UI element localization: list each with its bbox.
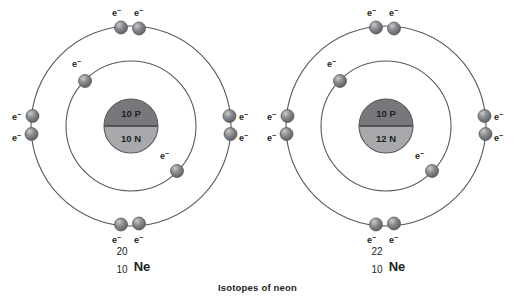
electron-label: e− xyxy=(134,7,143,19)
electron xyxy=(26,110,39,123)
element-symbol: Ne xyxy=(134,259,151,274)
electron-label: e− xyxy=(415,150,424,162)
electron-label: e− xyxy=(494,111,503,123)
electron-label: e− xyxy=(267,111,276,123)
electron xyxy=(115,218,128,231)
electron xyxy=(370,21,383,34)
atom-diagram-neon-22: 10 P 12 N e− e− e− e− e− e− e− e− e− e− xyxy=(255,0,515,280)
isotope-notation: 20 Ne 10 xyxy=(116,246,150,275)
electron-label: e− xyxy=(72,58,81,70)
electron-label: e− xyxy=(134,234,143,246)
mass-number: 20 xyxy=(116,246,128,257)
electron xyxy=(334,75,347,88)
electron xyxy=(478,110,491,123)
figure-caption: Isotopes of neon xyxy=(0,282,515,293)
electron xyxy=(25,128,38,141)
electron-label: e− xyxy=(12,132,21,144)
isotope-notation: 22 Ne 10 xyxy=(371,246,405,275)
electron xyxy=(370,218,383,231)
electron-label: e− xyxy=(239,111,248,123)
electron-label: e− xyxy=(367,234,376,246)
electron xyxy=(79,75,92,88)
electron-label: e− xyxy=(239,132,248,144)
electron xyxy=(479,128,492,141)
atomic-number: 10 xyxy=(371,264,383,275)
nucleus: 10 P 12 N xyxy=(359,99,413,153)
electron-label: e− xyxy=(327,58,336,70)
nucleus-protons-label: 10 P xyxy=(376,108,396,119)
electron-label: e− xyxy=(367,7,376,19)
electron xyxy=(223,110,236,123)
electron xyxy=(280,128,293,141)
electron xyxy=(426,165,439,178)
electron xyxy=(388,22,401,35)
electron-label: e− xyxy=(112,234,121,246)
nucleus: 10 P 10 N xyxy=(104,99,158,153)
atomic-number: 10 xyxy=(116,264,128,275)
electron xyxy=(115,21,128,34)
electron-label: e− xyxy=(494,132,503,144)
electron-label: e− xyxy=(12,111,21,123)
electron-label: e− xyxy=(160,150,169,162)
electron xyxy=(224,128,237,141)
atom-diagram-neon-20: 10 P 10 N e− e− e− e− e− e− xyxy=(0,0,260,280)
electron-label: e− xyxy=(267,132,276,144)
electron-label: e− xyxy=(389,7,398,19)
element-symbol: Ne xyxy=(389,259,406,274)
isotopes-of-neon-figure: 10 P 10 N e− e− e− e− e− e− xyxy=(0,0,515,302)
electron xyxy=(133,22,146,35)
mass-number: 22 xyxy=(371,246,383,257)
electron-label: e− xyxy=(389,234,398,246)
electron xyxy=(281,110,294,123)
nucleus-neutrons-label: 10 N xyxy=(121,133,141,144)
nucleus-neutrons-label: 12 N xyxy=(376,133,396,144)
electron xyxy=(388,217,401,230)
electron xyxy=(133,217,146,230)
electron xyxy=(171,165,184,178)
electron-label: e− xyxy=(112,7,121,19)
nucleus-protons-label: 10 P xyxy=(121,108,141,119)
